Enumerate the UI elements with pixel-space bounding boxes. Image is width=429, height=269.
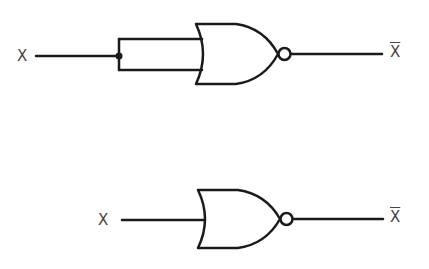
inversion-bubble	[281, 213, 293, 225]
nor-gate-body	[196, 24, 278, 84]
input-label: X	[98, 213, 108, 228]
circuit-2	[122, 190, 383, 248]
nor-gate-body	[198, 190, 280, 248]
output-label: X	[390, 210, 400, 225]
circuit-drawing	[0, 0, 429, 269]
circuit-1	[36, 24, 382, 84]
diagram-canvas: X X X X	[0, 0, 429, 269]
output-label: X	[390, 45, 400, 60]
inversion-bubble	[279, 48, 291, 60]
input-label: X	[17, 49, 27, 64]
junction-dot	[116, 53, 123, 60]
